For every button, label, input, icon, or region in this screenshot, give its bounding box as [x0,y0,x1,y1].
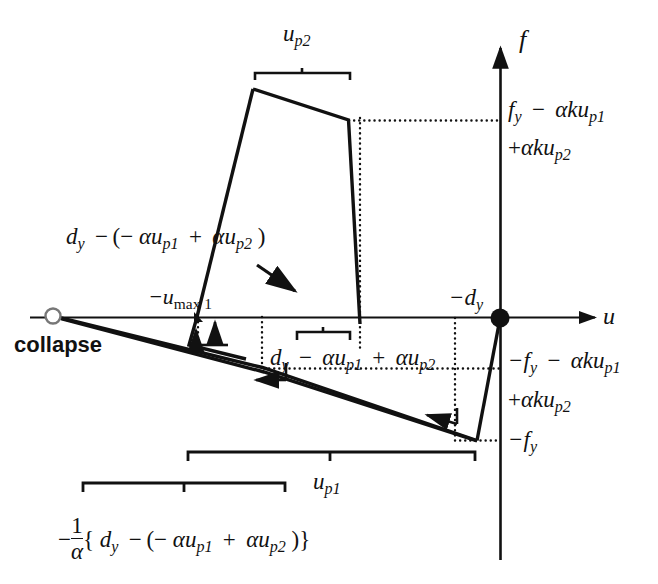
bracket-alpha-expression [83,483,285,492]
label-minus-dy: −dy [449,286,483,313]
bracket-up1 [188,452,475,461]
label-axis-u: u [603,304,615,328]
label-bottom-right-force-line3: −fy [508,428,537,455]
label-top-right-force-line2: +αkup2 [508,136,571,163]
figure-canvas: up2 collapse −umax 1 −dy u f fy − αkup1 … [0,0,658,584]
label-axis-f: f [519,27,526,53]
annotation-pointer-arrow [257,265,295,291]
label-top-right-force-line1: fy − αkup1 [508,98,605,125]
label-bottom-right-force-line2: +αkup2 [508,388,571,415]
label-up2-bracket: up2 [283,22,311,49]
label-umax1: −umax 1 [148,286,212,311]
label-bottom-expression: −1α{ dy − (− αup1 + αup2 )} [58,514,310,564]
projection-lines [198,118,500,441]
label-collapse: collapse [14,334,102,356]
bracket-center-small [297,327,350,340]
label-bottom-right-force-line1: −fy − αkup1 [508,349,621,376]
bracket-up2 [255,68,350,80]
yield-point-marker [491,309,510,328]
label-mid-left-expression: dy − (− αup1 + αup2 ) [66,225,265,252]
label-up1-bracket: up1 [313,470,341,497]
hysteresis-loop [53,89,500,441]
label-center-expression: dy − αup1 + αup2 [270,346,435,373]
collapse-point-marker [46,309,61,324]
